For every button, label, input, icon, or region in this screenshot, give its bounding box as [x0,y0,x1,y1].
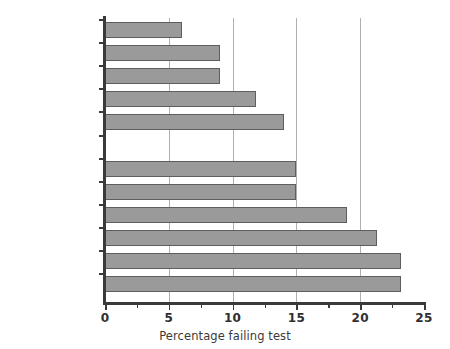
x-tick-minor [201,303,202,308]
bar [105,161,296,177]
x-tick-minor [137,303,138,308]
bar [105,276,401,292]
x-tick-minor [328,303,329,308]
bar [105,68,220,84]
y-axis-line [103,16,106,304]
x-tick-major [296,303,298,310]
x-tick-major [424,303,426,310]
x-tick-label: 20 [352,311,369,325]
x-tick-label: 15 [288,311,305,325]
x-tick-label: 10 [224,311,241,325]
x-tick-minor [392,303,393,308]
x-tick-major [169,303,171,310]
x-tick-minor [265,303,266,308]
bar [105,45,220,61]
bar [105,114,284,130]
x-tick-label: 5 [164,311,173,325]
bar [105,253,401,269]
plot-area [105,18,424,303]
x-tick-label: 25 [415,311,432,325]
bar [105,230,377,246]
x-tick-major [233,303,235,310]
x-tick-major [105,303,107,310]
x-axis-title: Percentage failing test [0,329,450,343]
bar [105,184,296,200]
bar [105,22,182,38]
x-tick-major [360,303,362,310]
x-tick-label: 0 [101,311,110,325]
bar [105,91,256,107]
bar [105,207,347,223]
bar-chart: 0510152025 SwedenGermanyThe NetherlandsS… [0,0,450,349]
